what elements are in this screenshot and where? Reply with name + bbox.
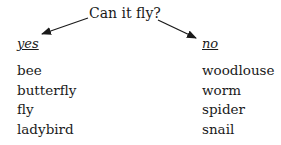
arrow-no-icon [158, 20, 196, 38]
yes-list: bee butterfly fly ladybird [17, 61, 76, 139]
question-label: Can it fly? [89, 5, 161, 21]
list-item: fly [17, 100, 76, 120]
list-item: woodlouse [202, 61, 275, 81]
list-item: snail [202, 120, 275, 140]
list-item: bee [17, 61, 76, 81]
list-item: spider [202, 100, 275, 120]
no-heading: no [202, 36, 218, 51]
list-item: worm [202, 81, 275, 101]
yes-heading: yes [17, 36, 39, 51]
no-list: woodlouse worm spider snail [202, 61, 275, 139]
list-item: butterfly [17, 81, 76, 101]
list-item: ladybird [17, 120, 76, 140]
arrow-yes-icon [42, 18, 88, 34]
